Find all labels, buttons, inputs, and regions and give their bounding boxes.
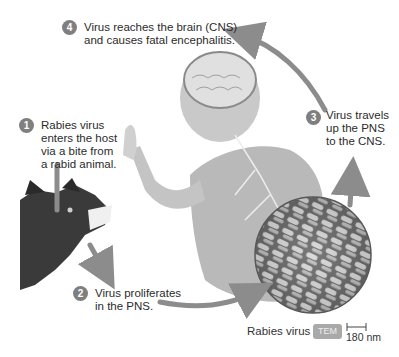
step-3-badge: 3	[306, 110, 321, 125]
step-1-badge: 1	[19, 118, 34, 133]
tem-micrograph	[255, 197, 371, 313]
dog-illustration	[20, 178, 112, 290]
step-4-badge: 4	[62, 20, 77, 35]
tem-badge: TEM	[313, 324, 342, 339]
step-2-text: Virus proliferates in the PNS.	[95, 287, 181, 313]
micrograph-label: Rabies virus	[247, 325, 310, 337]
scale-bar	[347, 323, 366, 331]
step-1-text: Rabies virus enters the host via a bite …	[41, 119, 117, 171]
diagram-artwork	[0, 0, 399, 357]
step-3-text: Virus travels up the PNS to the CNS.	[326, 109, 389, 148]
step-4-text: Virus reaches the brain (CNS) and causes…	[84, 21, 237, 47]
scale-label: 180 nm	[346, 331, 381, 343]
step-2-badge: 2	[73, 286, 88, 301]
